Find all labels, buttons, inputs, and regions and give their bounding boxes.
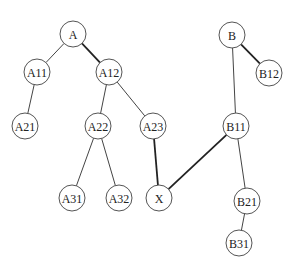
node-label: X <box>155 192 164 206</box>
node-a11: A11 <box>24 59 50 85</box>
edge-b-b11 <box>233 48 236 113</box>
edge-a11-a21 <box>28 85 34 114</box>
node-label: A31 <box>62 192 83 206</box>
node-b21: B21 <box>234 188 260 214</box>
node-label: A12 <box>99 66 120 80</box>
node-a23: A23 <box>140 113 166 139</box>
edge-a-a11 <box>46 43 64 62</box>
node-label: A22 <box>88 120 109 134</box>
edge-b21-b31 <box>241 214 244 230</box>
edge-b-b12 <box>241 44 260 63</box>
node-label: B <box>228 29 236 43</box>
node-a: A <box>60 21 86 47</box>
node-b31: B31 <box>226 230 252 256</box>
node-b12: B12 <box>256 60 282 86</box>
node-a21: A21 <box>12 113 38 139</box>
diagram-canvas: AA11A12A21A22A23A31A32XBB12B11B21B31 <box>0 0 296 268</box>
node-label: A <box>69 28 78 42</box>
node-label: B31 <box>229 237 249 251</box>
edge-a-a12 <box>82 43 100 62</box>
node-label: A32 <box>109 192 130 206</box>
node-a12: A12 <box>96 59 122 85</box>
tree-diagram: AA11A12A21A22A23A31A32XBB12B11B21B31 <box>0 0 296 268</box>
node-label: A11 <box>27 66 47 80</box>
edge-b11-b21 <box>238 139 245 188</box>
edge-a12-a22 <box>101 85 107 114</box>
node-label: A21 <box>15 120 36 134</box>
node-label: B12 <box>259 67 279 81</box>
node-label: A23 <box>143 120 164 134</box>
edge-a23-x <box>154 139 158 185</box>
edge-a22-a31 <box>76 138 93 186</box>
node-a31: A31 <box>59 185 85 211</box>
node-label: B21 <box>237 195 257 209</box>
node-b: B <box>219 22 245 48</box>
edge-a12-a23 <box>117 82 145 116</box>
edge-b11-x <box>168 135 226 189</box>
node-a32: A32 <box>106 185 132 211</box>
node-b11: B11 <box>223 113 249 139</box>
edge-a22-a32 <box>102 138 116 185</box>
node-x: X <box>146 185 172 211</box>
node-label: B11 <box>226 120 246 134</box>
node-a22: A22 <box>85 113 111 139</box>
